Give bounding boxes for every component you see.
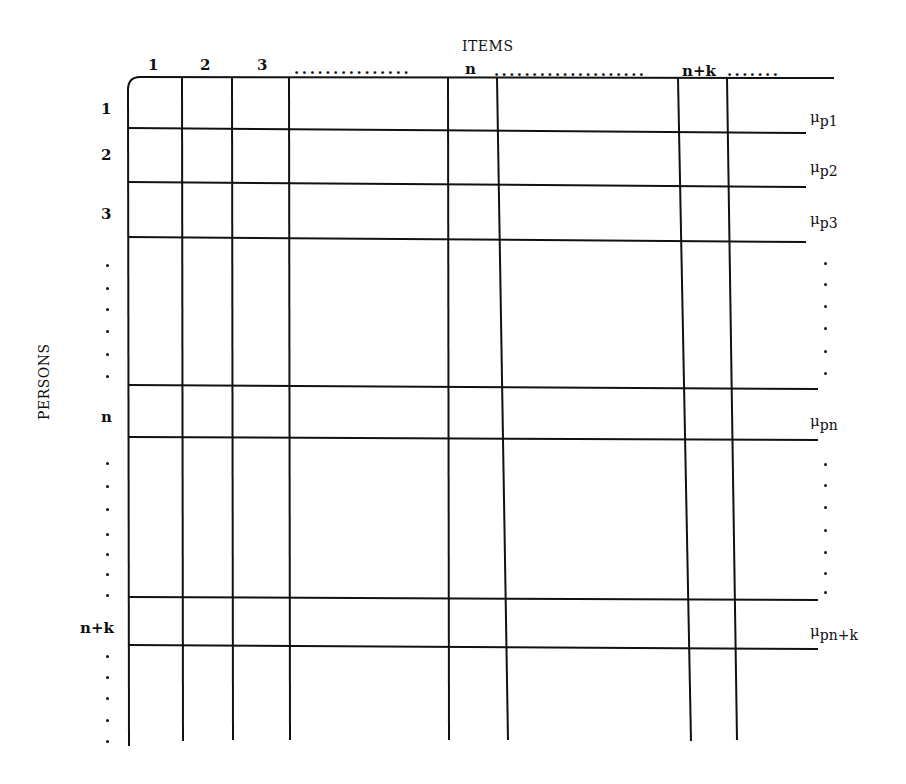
grid-vline — [289, 77, 290, 740]
grid-vline — [128, 88, 129, 746]
column-label: n+k — [682, 64, 716, 79]
grid-hline — [128, 182, 806, 187]
grid-vline — [678, 78, 691, 741]
column-ellipsis: .................... — [494, 64, 646, 79]
column-ellipsis: ....... — [727, 64, 780, 79]
column-ellipsis: ............... — [294, 62, 411, 77]
grid-vline — [497, 78, 508, 740]
column-label: 3 — [257, 58, 267, 73]
row-mean-label: μpn — [810, 414, 838, 429]
mu-symbol: μ — [810, 412, 820, 430]
mu-subscript: p2 — [820, 163, 838, 179]
grid-hline — [128, 437, 818, 440]
column-label: 1 — [148, 58, 158, 73]
row-label: n — [101, 410, 112, 425]
mu-subscript: pn+k — [820, 627, 858, 643]
grid-hline — [128, 237, 806, 242]
column-label: 2 — [200, 58, 210, 73]
mu-symbol: μ — [810, 622, 820, 640]
mu-symbol: μ — [810, 210, 820, 228]
grid-hline — [128, 645, 818, 649]
row-mean-label: μp1 — [810, 110, 838, 125]
row-label: 2 — [101, 148, 111, 163]
mu-subscript: p3 — [820, 215, 838, 231]
persons-title: PERSONS — [36, 343, 52, 420]
mu-symbol: μ — [810, 108, 820, 126]
row-mean-label: μp3 — [810, 212, 838, 227]
grid-vline — [232, 77, 233, 740]
row-mean-label: μpn+k — [810, 624, 858, 639]
row-label: 3 — [101, 207, 111, 222]
grid-vline — [727, 78, 737, 740]
mu-subscript: p1 — [820, 113, 838, 129]
grid-vline — [448, 77, 449, 740]
grid-hline — [128, 597, 818, 600]
items-title: ITEMS — [462, 38, 514, 54]
mu-symbol: μ — [810, 158, 820, 176]
grid-hline — [128, 128, 806, 133]
row-mean-label: μp2 — [810, 160, 838, 175]
mu-subscript: pn — [820, 417, 838, 433]
grid-vline — [182, 77, 183, 741]
column-label: n — [465, 62, 476, 77]
row-label: n+k — [80, 621, 114, 636]
matrix-grid — [0, 0, 906, 784]
row-label: 1 — [101, 102, 111, 117]
